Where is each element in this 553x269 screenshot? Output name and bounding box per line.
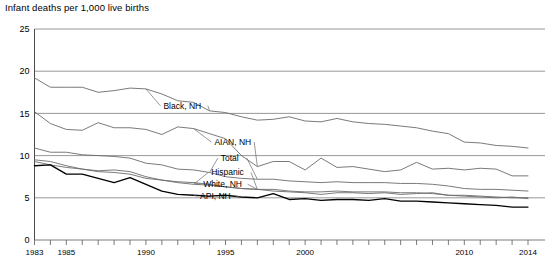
series-line — [35, 160, 529, 198]
axis-lines — [35, 29, 546, 240]
y-axis-tick-label: 15 — [19, 109, 29, 119]
y-axis-tick-label: 10 — [19, 151, 29, 161]
x-axis-tick-label: 1985 — [57, 248, 75, 257]
x-axis-tick-label: 2000 — [296, 248, 314, 257]
series-line — [35, 165, 529, 207]
y-axis-tick-label: 5 — [24, 193, 29, 203]
series-label: API, NH — [200, 191, 231, 201]
series-label: Black, NH — [163, 101, 201, 111]
leader-line — [254, 142, 257, 166]
series-line — [35, 148, 529, 191]
series-label: Hispanic — [211, 167, 244, 177]
series-label: White, NH — [203, 179, 242, 189]
x-axis-tick-label: 2010 — [455, 248, 473, 257]
series-label: AIAN, NH — [214, 137, 251, 147]
series-lines — [35, 78, 529, 207]
series-label: Total — [221, 153, 239, 163]
infant-mortality-line-chart: Infant deaths per 1,000 live births 0510… — [0, 0, 553, 269]
x-axis-ticks — [35, 240, 529, 245]
series-line — [35, 112, 529, 176]
leader-line — [194, 129, 212, 143]
x-axis-tick-label: 1983 — [26, 248, 44, 257]
x-axis-tick-label: 1990 — [137, 248, 155, 257]
x-axis-tick-label: 1995 — [217, 248, 235, 257]
x-axis-tick-labels: 1983198519901995200020102014 — [26, 248, 538, 257]
x-axis-tick-label: 2014 — [519, 248, 537, 257]
y-axis-tick-label: 20 — [19, 66, 29, 76]
y-axis-tick-label: 0 — [24, 235, 29, 245]
chart-plot-area: 0510152025 1983198519901995200020102014 … — [0, 0, 553, 269]
series-line — [35, 78, 529, 148]
y-axis-tick-labels: 0510152025 — [19, 24, 29, 245]
y-axis-tick-label: 25 — [19, 24, 29, 34]
